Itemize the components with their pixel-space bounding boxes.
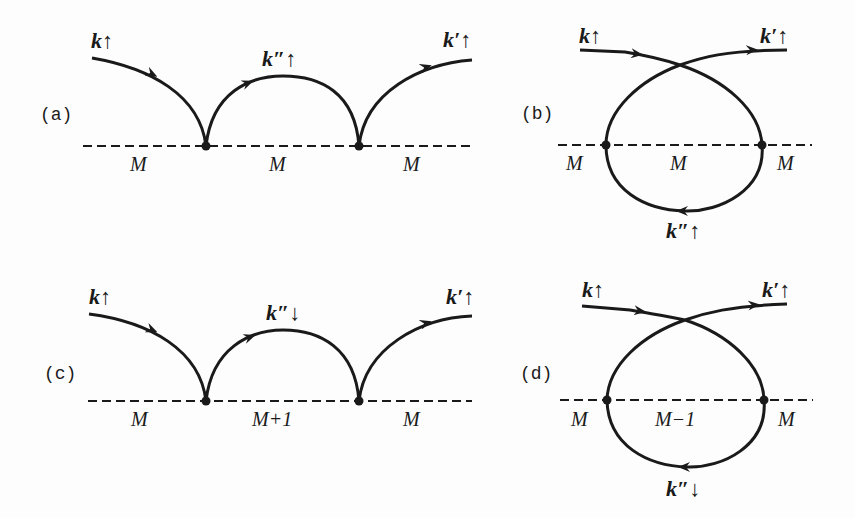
panel-c-outgoing-line (359, 316, 472, 401)
panel-d-m-label-mid: M−1 (655, 408, 695, 431)
panel-a-m-label-left: M (130, 153, 147, 176)
panel-d-incoming-label: k↑ (582, 277, 604, 303)
panel-d-vertex-2 (760, 396, 769, 405)
panel-c-vertex-2 (355, 397, 364, 406)
panel-d-outgoing-label: k′↑ (762, 277, 790, 303)
panel-d-m-label-right: M (778, 408, 795, 431)
panel-a-vertex-1 (202, 142, 211, 151)
panel-a-vertex-2 (355, 142, 364, 151)
panel-b-tag: (b) (521, 104, 553, 124)
panel-c-m-label-left: M (131, 408, 148, 431)
panel-b-incoming-label: k↑ (579, 23, 601, 49)
panel-a-outgoing-line (359, 60, 472, 146)
panel-c-intermediate-label: k″↓ (266, 300, 300, 326)
panel-a-incoming-line (92, 58, 206, 146)
panel-d-intermediate-label: k″↓ (666, 476, 700, 502)
panel-d-loop (582, 304, 787, 467)
panel-a-incoming-label: k↑ (91, 28, 113, 54)
panel-c-incoming-line (89, 314, 206, 401)
panel-c-outgoing-label: k′↑ (446, 284, 474, 310)
panel-c-diagram (88, 314, 472, 406)
panel-d-vertex-1 (603, 396, 612, 405)
diagram-lines (0, 0, 855, 518)
panel-b-m-label-right: M (777, 152, 794, 175)
panel-b-m-label-left: M (566, 152, 583, 175)
panel-b-vertex-1 (602, 141, 611, 150)
panel-a-intermediate-arc (206, 76, 359, 146)
panel-b-outgoing-label: k′↑ (760, 23, 788, 49)
panel-d-tag: (d) (520, 364, 552, 384)
panel-d-m-label-left: M (571, 408, 588, 431)
panel-b-loop (580, 50, 787, 211)
panel-b-m-label-mid: M (670, 152, 687, 175)
panel-a-m-label-mid: M (269, 153, 286, 176)
panel-a-tag: (a) (40, 105, 72, 125)
panel-c-vertex-1 (202, 397, 211, 406)
panel-c-intermediate-arc (206, 330, 359, 401)
panel-c-tag: (c) (44, 364, 76, 384)
panel-b-vertex-2 (758, 141, 767, 150)
panel-b-intermediate-label: k″↑ (666, 218, 700, 244)
panel-a-outgoing-label: k′↑ (443, 27, 471, 53)
panel-a-m-label-right: M (403, 153, 420, 176)
panel-a-intermediate-label: k″↑ (262, 46, 296, 72)
feynman-diagram-figure: (a) k↑ k″↑ k′↑ M M M (b) k↑ k′↑ k″↑ M M … (0, 0, 855, 518)
panel-c-m-label-right: M (403, 408, 420, 431)
panel-d-diagram (560, 304, 813, 467)
panel-b-diagram (558, 50, 812, 211)
panel-c-incoming-label: k↑ (89, 284, 111, 310)
panel-c-m-label-mid: M+1 (252, 408, 292, 431)
